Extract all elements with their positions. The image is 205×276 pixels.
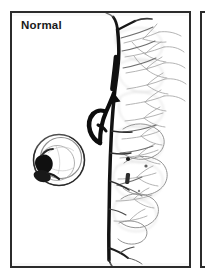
angiogram-panel-normal: Normal [10, 11, 191, 268]
angiogram-image [12, 13, 189, 266]
panel-label-normal: Normal [21, 20, 62, 32]
adjacent-panel-edge [200, 11, 205, 268]
figure-root: Normal [0, 0, 205, 276]
